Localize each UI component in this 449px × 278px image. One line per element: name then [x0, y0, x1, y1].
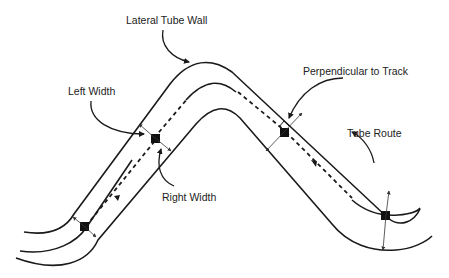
tube-route-centerline	[20, 160, 132, 252]
right-width-line-2	[155, 138, 171, 151]
label-perpendicular-to-track: Perpendicular to Track	[303, 65, 409, 77]
right-width-callout	[159, 149, 174, 186]
label-tube-route: Tube Route	[347, 127, 402, 139]
right-width-line-4	[383, 215, 386, 250]
perpendicular-callout	[289, 78, 343, 118]
left-width-line-1	[73, 217, 84, 226]
track-dashed-segment-2	[154, 98, 188, 138]
left-width-line-3	[266, 132, 284, 151]
direction-arrow-2	[311, 160, 317, 167]
right-width-line-1	[84, 226, 96, 237]
track-point-3	[280, 128, 289, 137]
lateral-tube-wall-callout	[163, 30, 189, 62]
direction-arrow-1	[114, 195, 120, 201]
tube-route-diagram: Lateral Tube Wall Left Width Right Width…	[0, 0, 449, 278]
label-lateral-tube-wall: Lateral Tube Wall	[126, 14, 207, 26]
label-right-width: Right Width	[162, 191, 216, 203]
tube-route-centerline-upper-left	[186, 83, 236, 100]
label-left-width: Left Width	[68, 85, 115, 97]
track-dashed-segment-4	[286, 132, 352, 198]
left-width-line-2	[139, 124, 155, 138]
